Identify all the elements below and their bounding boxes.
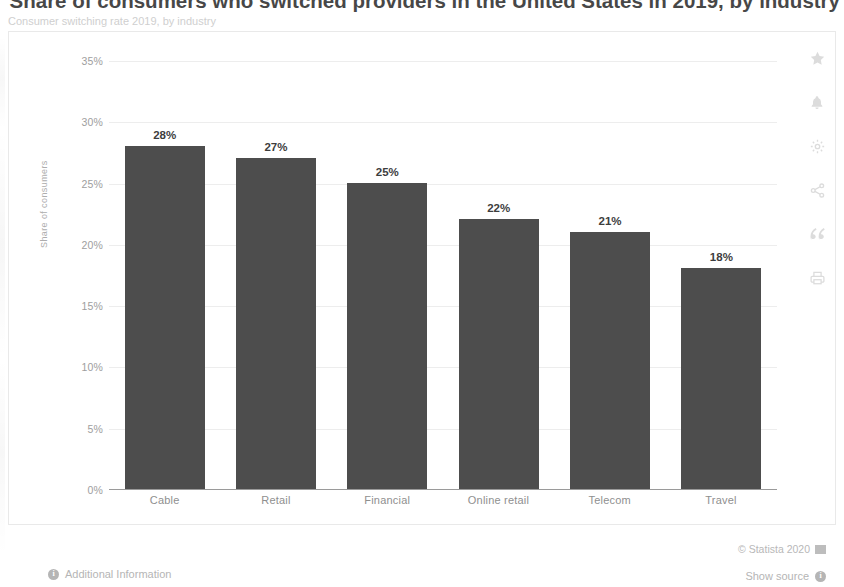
bell-icon[interactable] — [807, 92, 827, 112]
y-axis-tick-labels: 35%30%25%20%15%10%5%0% — [39, 61, 103, 490]
y-axis-tick: 5% — [45, 423, 103, 435]
quote-icon[interactable] — [807, 224, 827, 244]
y-axis-tick: 0% — [45, 484, 103, 496]
bar-slot: 21% — [554, 61, 665, 489]
bar[interactable] — [459, 219, 539, 489]
flag-icon — [815, 545, 826, 554]
bar-slot: 22% — [443, 61, 554, 489]
bar-value-label: 22% — [487, 202, 510, 214]
bar-value-label: 21% — [599, 215, 622, 227]
print-icon[interactable] — [807, 268, 827, 288]
gear-icon[interactable] — [807, 136, 827, 156]
bar[interactable] — [681, 268, 761, 489]
info-icon: i — [48, 569, 59, 580]
bar-value-label: 27% — [264, 141, 287, 153]
bar[interactable] — [570, 232, 650, 489]
additional-information-link[interactable]: i Additional Information — [48, 568, 171, 580]
plot-area: 28%27%25%22%21%18% — [109, 61, 777, 490]
chart-panel: Share of consumers 35%30%25%20%15%10%5%0… — [8, 31, 836, 525]
y-axis-tick: 35% — [45, 55, 103, 67]
page-subtitle: Consumer switching rate 2019, by industr… — [0, 13, 844, 29]
y-axis-tick: 30% — [45, 116, 103, 128]
x-axis-tick: Cable — [109, 494, 220, 506]
copyright-text: © Statista 2020 — [738, 543, 810, 555]
scan-edge-artifact — [0, 36, 5, 556]
page-title: Share of consumers who switched provider… — [0, 0, 844, 14]
show-source-link[interactable]: Show source i — [745, 570, 826, 582]
x-axis-tick: Retail — [220, 494, 331, 506]
x-axis-tick: Online retail — [443, 494, 554, 506]
page-title-strip: Share of consumers who switched provider… — [0, 0, 844, 14]
y-axis-tick: 10% — [45, 361, 103, 373]
additional-information-label: Additional Information — [65, 568, 171, 580]
copyright: © Statista 2020 — [738, 543, 826, 555]
action-rail — [804, 48, 830, 288]
y-axis-tick: 15% — [45, 300, 103, 312]
star-icon[interactable] — [807, 48, 827, 68]
bar[interactable] — [125, 146, 205, 489]
bar[interactable] — [236, 158, 316, 489]
info-icon: i — [815, 571, 826, 582]
x-axis-tick: Telecom — [554, 494, 665, 506]
share-icon[interactable] — [807, 180, 827, 200]
y-axis-tick: 20% — [45, 239, 103, 251]
bar-slot: 28% — [109, 61, 220, 489]
bar-slot: 18% — [666, 61, 777, 489]
x-axis-tick: Financial — [332, 494, 443, 506]
x-axis-line — [109, 489, 777, 490]
y-axis-tick: 25% — [45, 178, 103, 190]
bar-series: 28%27%25%22%21%18% — [109, 61, 777, 489]
bar-slot: 27% — [220, 61, 331, 489]
bar-value-label: 25% — [376, 166, 399, 178]
bar[interactable] — [347, 183, 427, 489]
statista-chart-page: Share of consumers who switched provider… — [0, 0, 844, 587]
show-source-label: Show source — [745, 570, 809, 582]
bar-value-label: 28% — [153, 129, 176, 141]
bar-slot: 25% — [332, 61, 443, 489]
x-axis-tick: Travel — [665, 494, 776, 506]
bar-value-label: 18% — [710, 251, 733, 263]
x-axis-tick-labels: CableRetailFinancialOnline retailTelecom… — [109, 494, 777, 506]
page-subtitle-strip: Consumer switching rate 2019, by industr… — [0, 13, 844, 29]
